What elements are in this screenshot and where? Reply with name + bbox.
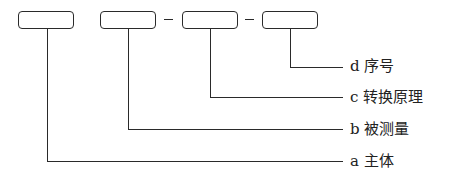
connector-a-horizontal [47,161,343,162]
connector-d-horizontal [290,67,343,68]
connector-a-vertical [47,29,48,161]
label-b-measurand: b 被测量 [350,121,409,137]
connector-b-vertical [128,29,129,129]
box-b-measurand [100,11,156,29]
separator-dash-2 [245,19,254,20]
box-d-serial-number [262,11,318,29]
label-c-conversion-principle: c 转换原理 [350,89,423,105]
separator-dash-1 [164,19,173,20]
box-a-main-body [18,11,74,29]
connector-d-vertical [290,29,291,67]
connector-c-vertical [210,29,211,97]
label-a-main-body: a 主体 [350,153,394,169]
box-c-conversion-principle [182,11,238,29]
connector-b-horizontal [128,129,343,130]
label-d-serial-number: d 序号 [350,58,394,74]
connector-c-horizontal [210,97,343,98]
